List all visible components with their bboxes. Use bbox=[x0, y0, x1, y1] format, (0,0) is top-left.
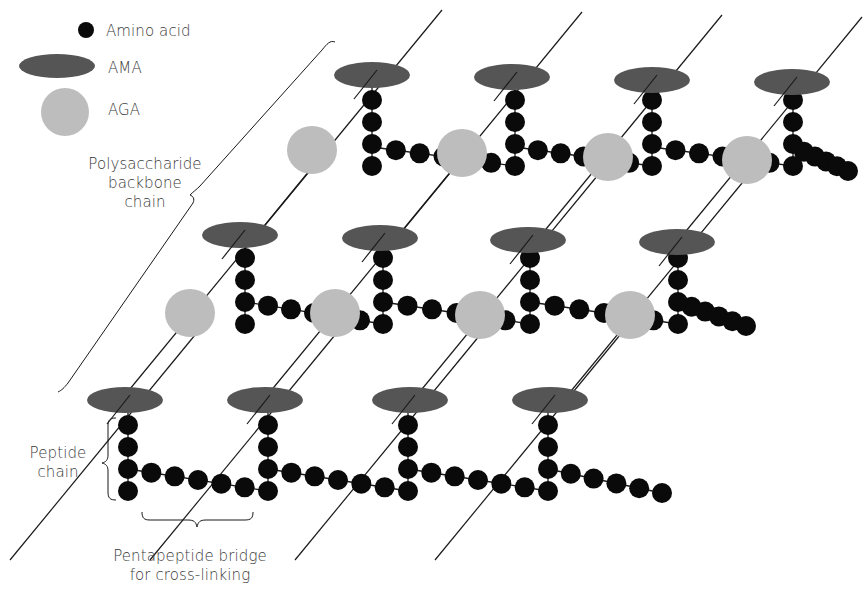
amino-acid-bead bbox=[410, 143, 430, 163]
amino-acid-bead bbox=[505, 90, 525, 110]
amino-acid-bead bbox=[642, 112, 662, 132]
amino-acid-bead bbox=[642, 134, 662, 154]
amino-acid-bead bbox=[235, 292, 255, 312]
pentapeptide-brace bbox=[142, 512, 253, 527]
amino-acid-bead bbox=[362, 134, 382, 154]
ama-sugar bbox=[87, 387, 163, 413]
ama-sugar bbox=[614, 67, 690, 93]
aga-sugar bbox=[437, 129, 487, 177]
amino-acid-bead bbox=[165, 466, 185, 486]
amino-acid-bead bbox=[118, 481, 138, 501]
polysaccharide-backbone-line bbox=[295, 335, 480, 560]
aga-sugar bbox=[165, 289, 215, 337]
amino-acid-bead bbox=[258, 296, 278, 316]
backbone-chain-label: Polysaccharide backbone chain bbox=[70, 155, 220, 212]
amino-acid-bead bbox=[538, 459, 558, 479]
ama-sugar bbox=[754, 69, 830, 95]
legend-ama-label: AMA bbox=[108, 59, 142, 78]
amino-acid-bead bbox=[373, 248, 393, 268]
aga-sugar bbox=[455, 291, 505, 339]
polysaccharide-backbone-line bbox=[150, 335, 335, 560]
amino-acid-bead bbox=[141, 463, 161, 483]
amino-acid-bead bbox=[629, 478, 649, 498]
backbone-brace bbox=[58, 41, 335, 392]
amino-acid-bead bbox=[783, 112, 803, 132]
amino-acid-bead bbox=[362, 90, 382, 110]
amino-acid-bead bbox=[668, 270, 688, 290]
amino-acid-bead bbox=[520, 270, 540, 290]
ama-sugar bbox=[372, 387, 448, 413]
amino-acid-bead bbox=[258, 415, 278, 435]
amino-acid-bead bbox=[505, 112, 525, 132]
aga-sugar bbox=[310, 289, 360, 337]
amino-acid-bead bbox=[211, 474, 231, 494]
amino-acid-bead bbox=[362, 156, 382, 176]
peptide-chain-brace bbox=[102, 418, 116, 500]
amino-acid-bead bbox=[258, 437, 278, 457]
ama-sugar bbox=[490, 227, 566, 253]
legend-aga-label: AGA bbox=[108, 101, 140, 120]
amino-acid-bead bbox=[520, 314, 540, 334]
ama-sugar bbox=[474, 64, 550, 90]
amino-acid-bead bbox=[445, 466, 465, 486]
ama-sugar bbox=[512, 387, 588, 413]
amino-acid-bead bbox=[373, 314, 393, 334]
amino-acid-bead bbox=[491, 474, 511, 494]
amino-acid-bead bbox=[281, 299, 301, 319]
amino-acid-bead bbox=[421, 463, 441, 483]
aga-sugar bbox=[605, 291, 655, 339]
amino-acid-bead bbox=[668, 314, 688, 334]
amino-acid-bead bbox=[569, 299, 589, 319]
backbone-label-line3: chain bbox=[70, 193, 220, 212]
polysaccharide-backbone-line bbox=[562, 177, 747, 402]
amino-acid-bead bbox=[373, 270, 393, 290]
amino-acid-bead bbox=[551, 143, 571, 163]
amino-acid-bead bbox=[668, 292, 688, 312]
legend-aga-icon bbox=[41, 88, 89, 136]
amino-acid-bead bbox=[305, 466, 325, 486]
legend-amino-acid-icon bbox=[78, 22, 94, 38]
amino-acid-bead bbox=[398, 296, 418, 316]
amino-acid-bead bbox=[783, 134, 803, 154]
amino-acid-bead bbox=[528, 140, 548, 160]
amino-acid-bead bbox=[642, 156, 662, 176]
backbone-label-line2: backbone bbox=[70, 174, 220, 193]
ama-sugar bbox=[202, 222, 278, 248]
amino-acid-bead bbox=[398, 437, 418, 457]
amino-acid-bead bbox=[375, 477, 395, 497]
amino-acid-bead bbox=[838, 161, 858, 181]
amino-acid-bead bbox=[398, 415, 418, 435]
polysaccharide-backbone-line bbox=[265, 173, 450, 398]
amino-acid-bead bbox=[584, 469, 604, 489]
amino-acid-bead bbox=[118, 415, 138, 435]
amino-acid-bead bbox=[538, 481, 558, 501]
peptidoglycan-structure bbox=[0, 0, 864, 589]
amino-acid-bead bbox=[689, 143, 709, 163]
amino-acid-bead bbox=[505, 134, 525, 154]
amino-acid-bead bbox=[258, 459, 278, 479]
amino-acid-bead bbox=[351, 474, 371, 494]
amino-acid-bead bbox=[398, 459, 418, 479]
peptide-label-line1: Peptide bbox=[18, 444, 98, 463]
amino-acid-bead bbox=[538, 437, 558, 457]
amino-acid-bead bbox=[666, 140, 686, 160]
amino-acid-bead bbox=[235, 314, 255, 334]
amino-acid-bead bbox=[188, 470, 208, 490]
amino-acid-bead bbox=[561, 464, 581, 484]
amino-acid-bead bbox=[235, 248, 255, 268]
legend-ama-icon bbox=[19, 54, 95, 78]
amino-acid-bead bbox=[520, 292, 540, 312]
amino-acid-bead bbox=[468, 470, 488, 490]
amino-acid-bead bbox=[736, 316, 756, 336]
aga-sugar bbox=[722, 136, 772, 184]
amino-acid-bead bbox=[606, 473, 626, 493]
polysaccharide-backbone-line bbox=[537, 15, 722, 240]
legend-amino-acid-label: Amino acid bbox=[106, 22, 191, 41]
amino-acid-bead bbox=[783, 156, 803, 176]
peptidoglycan-diagram: Amino acid AMA AGA Polysaccharide backbo… bbox=[0, 0, 864, 589]
aga-sugar bbox=[287, 126, 337, 174]
amino-acid-bead bbox=[505, 156, 525, 176]
amino-acid-bead bbox=[118, 437, 138, 457]
amino-acid-bead bbox=[422, 299, 442, 319]
amino-acid-bead bbox=[398, 481, 418, 501]
